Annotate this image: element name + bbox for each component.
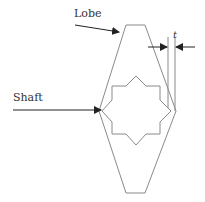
lobe-leader-arrow (75, 25, 119, 32)
lobe-label: Lobe (74, 8, 101, 19)
lobe-outline (99, 25, 176, 193)
shaft-star (102, 76, 171, 145)
shaft-label: Shaft (13, 92, 43, 103)
thickness-label: t (173, 30, 177, 40)
lobe-shaft-diagram: Lobe Shaft t (0, 0, 205, 202)
